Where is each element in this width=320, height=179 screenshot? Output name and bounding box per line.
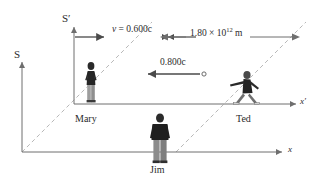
distance-mantissa: 1.80 × 10 [190,28,226,38]
person-mary [85,62,96,102]
frame-s-label: S [14,49,20,60]
label-ted: Ted [236,114,251,124]
relativity-figure: S S′ x x′ v = 0.600c 0.800c 1.80 × 1012 … [0,0,320,179]
person-jim [150,113,170,163]
ball-velocity-arrow [148,72,206,76]
figure-canvas [0,0,320,179]
label-mary: Mary [75,114,97,124]
label-jim: Jim [150,165,164,175]
distance-label: 1.80 × 1012 m [190,29,243,39]
ball-speed-label: 0.800c [160,58,186,68]
frame-s-prime-label: S′ [62,13,71,24]
velocity-equals: = [116,24,126,34]
x-axis-label: x [288,145,292,154]
x-prime-axis-label: x′ [300,97,306,106]
person-ted [230,71,260,105]
frame-velocity-label: v = 0.600c [112,25,152,35]
velocity-value: 0.600c [126,24,152,34]
distance-unit: m [233,28,243,38]
